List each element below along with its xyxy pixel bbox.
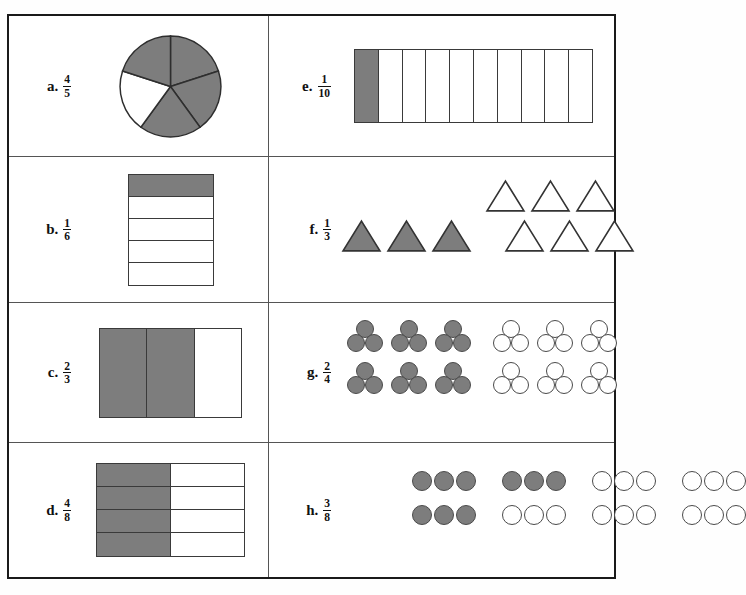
- triangle-icon: [504, 219, 545, 253]
- circle: [704, 505, 724, 525]
- item-letter-a: a.: [47, 78, 58, 95]
- circle: [511, 334, 529, 352]
- circle-triplet-blank: [592, 471, 656, 491]
- circle-cluster: [435, 320, 472, 353]
- circle: [599, 334, 617, 352]
- triangle-group-blank: [504, 219, 639, 253]
- circle: [456, 505, 476, 525]
- circle: [555, 376, 573, 394]
- circle-triplet-blank: [592, 505, 656, 525]
- item-label-e: e. 1 10: [269, 73, 333, 98]
- triplet-row: [412, 505, 746, 525]
- circle-triplet-blank: [682, 505, 746, 525]
- fraction-denominator-g: 4: [323, 372, 331, 385]
- fraction-numerator-c: 2: [63, 360, 71, 372]
- triangle-icon: [341, 219, 382, 253]
- circle: [409, 334, 427, 352]
- circle: [682, 471, 702, 491]
- triangle-row-bottom: [341, 219, 639, 253]
- circle: [435, 334, 453, 352]
- circle: [502, 505, 522, 525]
- fraction-numerator-f: 1: [323, 217, 331, 229]
- fraction-b: 1 6: [63, 217, 71, 242]
- circle: [636, 505, 656, 525]
- bar-model-b: [128, 174, 214, 286]
- circle-cluster: [537, 320, 574, 353]
- worksheet-cell-c: c. 2 3: [9, 303, 269, 442]
- circle: [456, 471, 476, 491]
- fraction-numerator-d: 4: [63, 497, 71, 509]
- circle: [412, 505, 432, 525]
- triangle-group: [485, 179, 620, 213]
- figure-f: [333, 157, 614, 302]
- bar-cell: [498, 50, 522, 122]
- bar-cell: [129, 263, 213, 285]
- circle: [412, 471, 432, 491]
- fraction-numerator-b: 1: [63, 217, 71, 229]
- circle-triplet-shaded: [412, 471, 476, 491]
- item-label-h: h. 3 8: [269, 497, 333, 522]
- item-letter-h: h.: [306, 502, 318, 519]
- bar-cell: [545, 50, 569, 122]
- cluster-line: [493, 320, 618, 353]
- circle: [434, 471, 454, 491]
- item-label-d: d. 4 8: [9, 497, 73, 522]
- fraction-denominator-a: 5: [63, 86, 71, 99]
- circle: [391, 376, 409, 394]
- fraction-c: 2 3: [63, 360, 71, 385]
- fraction-denominator-b: 6: [63, 229, 71, 242]
- circle: [435, 376, 453, 394]
- fraction-denominator-c: 3: [63, 372, 71, 385]
- figure-a: [73, 16, 268, 156]
- circle: [614, 505, 634, 525]
- worksheet-cell-g: g. 2 4: [269, 303, 614, 442]
- worksheet-cell-h: h. 3 8: [269, 443, 614, 577]
- fraction-f: 1 3: [323, 217, 331, 242]
- worksheet-row-4: d. 4 8 h.: [9, 443, 614, 577]
- circle-cluster: [537, 362, 574, 395]
- bar-cell: [147, 329, 194, 417]
- fraction-g: 2 4: [323, 360, 331, 385]
- circle: [453, 376, 471, 394]
- circle: [493, 334, 511, 352]
- worksheet-cell-e: e. 1 10: [269, 16, 614, 156]
- worksheet-cell-b: b. 1 6: [9, 157, 269, 302]
- circle: [511, 376, 529, 394]
- circle-cluster: [391, 362, 428, 395]
- circle: [453, 334, 471, 352]
- bar-model-e: [354, 49, 593, 123]
- circle-cluster: [493, 362, 530, 395]
- circle: [704, 471, 724, 491]
- circle-cluster: [391, 320, 428, 353]
- circle-group-top-right: [493, 320, 618, 395]
- grid-cell: [97, 510, 171, 533]
- circle: [592, 471, 612, 491]
- bar-cell: [474, 50, 498, 122]
- figure-g: [333, 303, 614, 442]
- circle: [347, 376, 365, 394]
- fraction-h: 3 8: [323, 497, 331, 522]
- grid-cell: [171, 464, 245, 487]
- fraction-worksheet-table: a. 4 5 e. 1 10: [7, 14, 616, 579]
- circle-triplet-shaded: [412, 505, 476, 525]
- circle-cluster: [493, 320, 530, 353]
- item-letter-d: d.: [46, 502, 58, 519]
- circle-cluster: [347, 362, 384, 395]
- triplet-row: [412, 471, 746, 491]
- triangle-icon: [431, 219, 472, 253]
- triangle-icon: [530, 179, 571, 213]
- fraction-numerator-e: 1: [320, 73, 328, 85]
- circle: [592, 505, 612, 525]
- triangle-set-f: [333, 157, 614, 302]
- bar-cell: [569, 50, 592, 122]
- circle: [581, 376, 599, 394]
- worksheet-cell-f: f. 1 3: [269, 157, 614, 302]
- circle: [434, 505, 454, 525]
- circle: [493, 376, 511, 394]
- item-label-a: a. 4 5: [9, 73, 73, 98]
- worksheet-row-3: c. 2 3 g. 2 4: [9, 303, 614, 443]
- bar-cell: [355, 50, 379, 122]
- circle-cluster: [581, 320, 618, 353]
- item-letter-g: g.: [307, 364, 318, 381]
- bar-cell: [426, 50, 450, 122]
